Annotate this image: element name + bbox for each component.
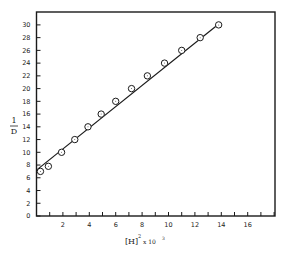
y-tick-label: 2 [26,200,30,208]
y-tick-label: 30 [22,21,30,29]
fit-line [37,23,220,170]
y-axis-title-numerator: 1 [11,116,16,125]
chart: 024681012141618202224262830 246810121416… [0,0,285,255]
data-points [37,22,222,175]
x-tick-label: 14 [217,221,225,229]
x-tick-label: 6 [114,221,118,229]
x-axis-title: [H] 2 x 10 3 [125,233,165,246]
x-tick-label: 2 [61,221,65,229]
y-tick-label: 0 [26,212,30,220]
x-tick-label: 10 [164,221,172,229]
y-tick-label: 10 [22,149,30,157]
y-tick-label: 8 [26,161,30,169]
x-axis-title-sup: 2 [138,233,141,239]
y-tick-label: 16 [22,110,30,118]
y-axis: 024681012141618202224262830 [22,21,40,220]
x-axis: 246810121416 [50,212,274,229]
y-axis-title: 1 D [10,116,18,136]
y-tick-label: 28 [22,34,30,42]
y-tick-label: 14 [22,123,30,131]
y-tick-label: 20 [22,85,30,93]
x-tick-label: 16 [244,221,252,229]
y-axis-title-denominator: D [11,127,17,136]
y-tick-label: 22 [22,72,30,80]
x-axis-title-exp: 3 [162,236,165,241]
plot-frame [37,12,276,216]
x-tick-label: 12 [191,221,199,229]
y-tick-label: 24 [22,59,30,67]
y-tick-label: 12 [22,136,30,144]
x-axis-title-main: [H] [125,237,138,246]
x-tick-label: 4 [87,221,91,229]
y-tick-label: 6 [26,174,30,182]
x-axis-title-suffix: x 10 [143,238,156,245]
y-tick-label: 26 [22,47,30,55]
x-tick-label: 8 [140,221,144,229]
y-tick-label: 4 [26,187,30,195]
y-tick-label: 18 [22,98,30,106]
